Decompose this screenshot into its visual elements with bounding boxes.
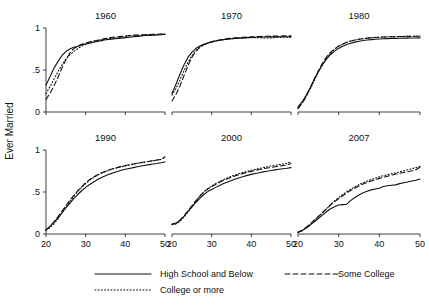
panel-1970: 1970: [172, 10, 291, 115]
series-line-dotted: [298, 166, 420, 232]
series-line-dashed: [298, 167, 420, 232]
panel-1980: 1980: [298, 10, 420, 115]
x-tick-label: 30: [81, 239, 91, 249]
y-axis-label: Ever Married: [4, 102, 15, 159]
series-line-dashed: [46, 34, 165, 100]
panel-title-2000: 2000: [221, 132, 242, 143]
panel-2007: 200720304050: [293, 132, 425, 249]
panel-title-1960: 1960: [95, 10, 116, 21]
x-tick-label: 50: [415, 239, 425, 249]
panel-2000: 200020304050: [167, 132, 296, 249]
legend-label: High School and Below: [160, 269, 254, 279]
series-line-solid: [46, 162, 165, 230]
series-line-solid: [172, 168, 291, 224]
x-tick-label: 30: [334, 239, 344, 249]
series-line-dashed: [172, 36, 291, 101]
panel-title-1970: 1970: [221, 10, 242, 21]
x-tick-label: 20: [41, 239, 51, 249]
series-line-dashed: [46, 157, 165, 230]
series-line-dotted: [172, 37, 291, 95]
x-tick-label: 20: [167, 239, 177, 249]
series-line-solid: [298, 38, 420, 107]
panel-title-1990: 1990: [95, 132, 116, 143]
x-tick-label: 30: [207, 239, 217, 249]
series-line-dotted: [172, 162, 291, 225]
y-tick-label: .5: [32, 65, 40, 75]
chart-figure: 19600.511970198019900.512030405020002030…: [0, 0, 429, 308]
legend-label: Some College: [338, 269, 395, 279]
panel-title-1980: 1980: [348, 10, 369, 21]
y-tick-label: 1: [35, 23, 40, 33]
y-tick-label: 1: [35, 145, 40, 155]
panel-1990: 19900.5120304050: [32, 132, 170, 249]
x-tick-label: 40: [374, 239, 384, 249]
x-tick-label: 20: [293, 239, 303, 249]
panel-title-2007: 2007: [348, 132, 369, 143]
series-line-solid: [172, 37, 291, 94]
multi-panel-line-chart: 19600.511970198019900.512030405020002030…: [0, 0, 429, 308]
y-tick-label: 0: [35, 107, 40, 117]
x-tick-label: 40: [246, 239, 256, 249]
series-line-dashed: [298, 36, 420, 108]
legend: High School and BelowSome CollegeCollege…: [95, 269, 395, 295]
panel-1960: 19600.51: [32, 10, 165, 117]
y-tick-label: 0: [35, 229, 40, 239]
y-tick-label: .5: [32, 187, 40, 197]
series-line-dotted: [46, 157, 165, 230]
legend-label: College or more: [160, 285, 224, 295]
x-tick-label: 40: [120, 239, 130, 249]
series-line-dotted: [298, 36, 420, 108]
series-line-solid: [46, 34, 165, 85]
series-line-solid: [298, 179, 420, 232]
series-line-dashed: [172, 163, 291, 224]
